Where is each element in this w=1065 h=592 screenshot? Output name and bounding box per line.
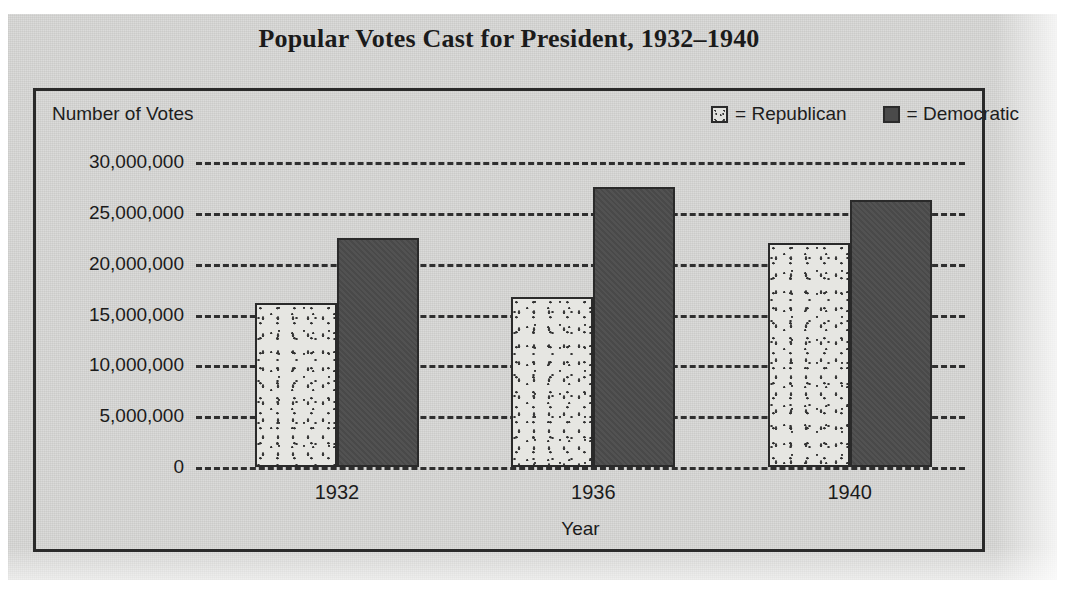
page-right-fade bbox=[995, 14, 1057, 580]
page-title: Popular Votes Cast for President, 1932–1… bbox=[33, 24, 985, 54]
y-axis-tick-labels: 30,000,00025,000,00020,000,00015,000,000… bbox=[44, 162, 184, 467]
x-tick-label: 1940 bbox=[827, 481, 872, 504]
gridline bbox=[196, 162, 965, 165]
y-axis-label: Number of Votes bbox=[52, 103, 194, 125]
bar-democratic-1936 bbox=[593, 187, 675, 467]
x-tick-label: 1936 bbox=[571, 481, 616, 504]
bar-republican-1940 bbox=[768, 243, 850, 467]
x-axis-label: Year bbox=[196, 518, 965, 540]
y-tick-label: 5,000,000 bbox=[99, 405, 184, 427]
plot-area bbox=[196, 162, 965, 467]
y-tick-label: 0 bbox=[173, 456, 184, 478]
legend-label-republican: = Republican bbox=[735, 103, 846, 125]
legend-item-democratic: = Democratic bbox=[883, 103, 1019, 125]
republican-swatch-icon bbox=[711, 106, 728, 123]
democratic-swatch-icon bbox=[883, 106, 900, 123]
y-tick-label: 30,000,000 bbox=[89, 151, 184, 173]
legend-label-democratic: = Democratic bbox=[907, 103, 1019, 125]
y-tick-label: 20,000,000 bbox=[89, 253, 184, 275]
bar-democratic-1940 bbox=[850, 200, 932, 467]
y-tick-label: 25,000,000 bbox=[89, 202, 184, 224]
bar-democratic-1932 bbox=[337, 238, 419, 467]
bar-republican-1932 bbox=[255, 303, 337, 467]
x-axis-tick-labels: 193219361940 bbox=[196, 481, 965, 507]
y-tick-label: 15,000,000 bbox=[89, 304, 184, 326]
bar-republican-1936 bbox=[511, 297, 593, 467]
y-tick-label: 10,000,000 bbox=[89, 354, 184, 376]
x-tick-label: 1932 bbox=[315, 481, 360, 504]
gridline bbox=[196, 467, 965, 470]
chart-legend: = Republican = Democratic bbox=[711, 103, 1019, 125]
legend-item-republican: = Republican bbox=[711, 103, 846, 125]
scanned-page: Popular Votes Cast for President, 1932–1… bbox=[0, 0, 1065, 592]
